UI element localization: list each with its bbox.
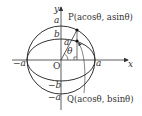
origin-label: O <box>53 61 60 71</box>
y-axis-label: y <box>53 4 60 14</box>
point-p-label: P(acosθ, asinθ) <box>68 12 133 22</box>
tick-y-a: a <box>54 15 59 25</box>
tick-x-a: a <box>96 58 101 68</box>
tick-neg-y-b: −b <box>48 80 62 90</box>
tick-neg-x-a: −a <box>13 58 26 68</box>
point-q <box>75 39 78 42</box>
right-angle-mark <box>74 57 77 60</box>
circle-ellipse-diagram: y x O a b −b −a a −a a θ P(acosθ, asinθ)… <box>0 0 142 116</box>
tick-y-b: b <box>54 29 60 39</box>
point-q-label: Q(acosθ, bsinθ) <box>67 94 134 104</box>
tick-neg-y-a: −a <box>48 92 61 102</box>
x-axis-label: x <box>128 59 133 69</box>
angle-label: θ <box>67 46 73 56</box>
point-p <box>75 28 78 31</box>
